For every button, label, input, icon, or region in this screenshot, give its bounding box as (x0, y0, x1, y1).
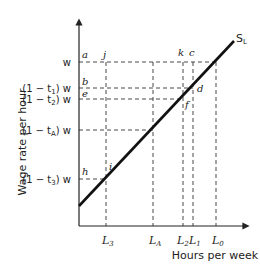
point-b: b (82, 76, 88, 87)
point-k: k (178, 47, 184, 58)
x-tick-L0: L0 (211, 234, 224, 248)
guide-lines (79, 62, 216, 226)
point-e: e (82, 88, 88, 99)
point-a: a (82, 49, 88, 60)
y-tick-t3: (1 − t3) w (22, 174, 71, 187)
curve-label: SL (236, 32, 247, 46)
labor-supply-diagram: Wage rate per hour SL w (1 − t1) w (1 − … (0, 0, 260, 267)
point-d: d (197, 83, 203, 94)
y-tick-t2: (1 − t2) w (22, 94, 71, 107)
point-f: f (184, 99, 191, 110)
labor-supply-curve (79, 41, 234, 206)
point-j: j (101, 49, 106, 60)
x-tick-labels: L3 LA L2 L1 L0 (101, 234, 224, 248)
y-tick-w: w (63, 57, 71, 68)
point-c: c (189, 47, 195, 58)
x-tick-L1: L1 (188, 234, 201, 248)
point-h: h (82, 166, 88, 177)
x-tick-L3: L3 (101, 234, 114, 248)
x-axis-label: Hours per week (172, 249, 259, 262)
point-i: i (109, 161, 112, 172)
y-tick-labels: w (1 − t1) w (1 − t2) w (1 − tA) w (1 − … (22, 57, 71, 187)
point-labels: a j k c b d e f h i (82, 47, 203, 177)
x-tick-L2: L2 (176, 234, 189, 248)
y-tick-tA: (1 − tA) w (22, 125, 71, 138)
x-tick-LA: LA (148, 234, 161, 248)
